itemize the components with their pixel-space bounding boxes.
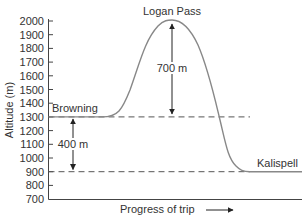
label-700m: 700 m [157, 62, 188, 74]
y-tick-label: 1500 [20, 84, 44, 96]
y-tick-label: 1600 [20, 70, 44, 82]
y-tick-label: 1900 [20, 29, 44, 41]
y-tick-label: 1800 [20, 42, 44, 54]
y-tick-label: 1400 [20, 97, 44, 109]
y-axis-title: Altitude (m) [3, 82, 15, 138]
y-tick-label: 1100 [20, 138, 44, 150]
altitude-chart: 2000 1900 1800 1700 1600 1500 1400 1300 … [0, 0, 308, 219]
y-tick-label: 1200 [20, 125, 44, 137]
label-400m: 400 m [58, 138, 89, 150]
label-browning: Browning [52, 102, 98, 114]
y-tick-label: 1300 [20, 111, 44, 123]
label-logan-pass: Logan Pass [143, 5, 202, 17]
x-axis-title: Progress of trip [120, 203, 195, 215]
y-tick-label: 1000 [20, 152, 44, 164]
y-tick-label: 1700 [20, 56, 44, 68]
y-tick-label: 900 [26, 166, 44, 178]
label-kalispell: Kalispell [257, 157, 298, 169]
y-tick-label: 700 [26, 193, 44, 205]
y-tick-label: 2000 [20, 15, 44, 27]
y-tick-label: 800 [26, 179, 44, 191]
y-tick-labels: 2000 1900 1800 1700 1600 1500 1400 1300 … [20, 15, 44, 205]
